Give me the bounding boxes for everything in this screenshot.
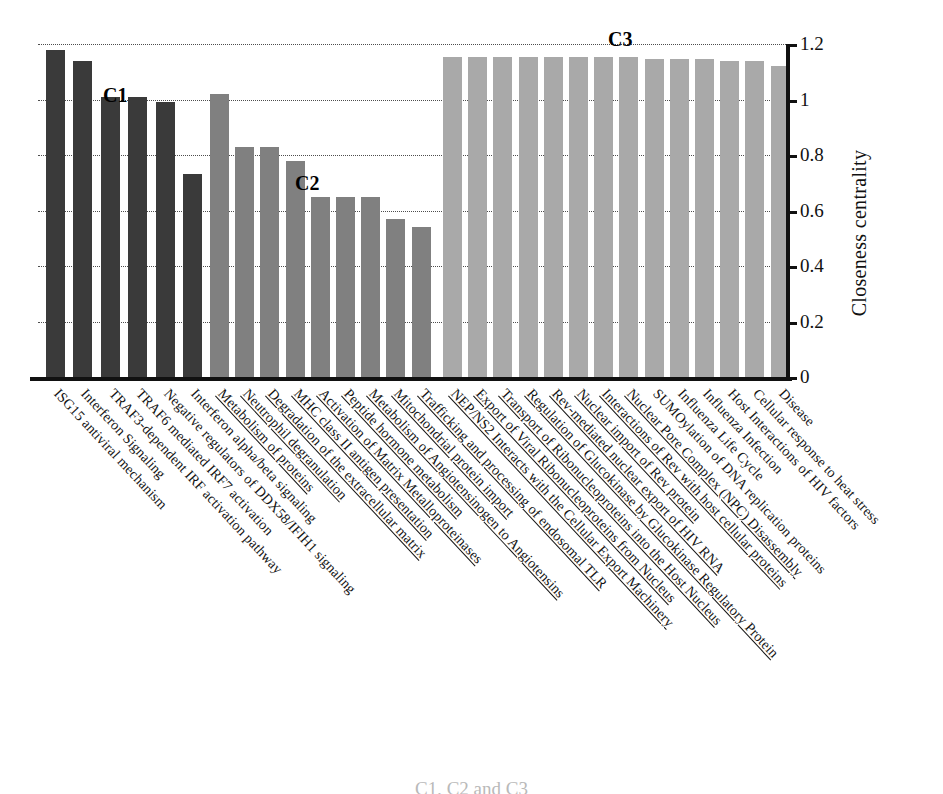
figure-caption: C1, C2 and C3: [0, 778, 943, 794]
